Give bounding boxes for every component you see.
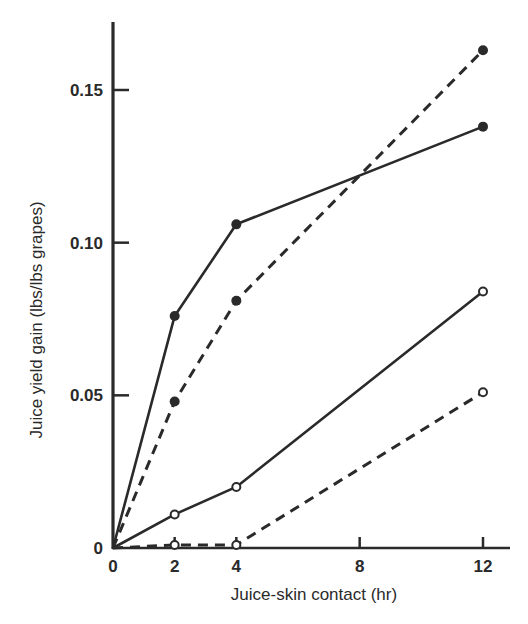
x-axis-label: Juice-skin contact (hr)	[231, 585, 397, 604]
data-point-filled	[170, 396, 180, 406]
y-axis-label: Juice yield gain (lbs/lbs grapes)	[27, 201, 46, 438]
y-tick-label: 0.05	[70, 386, 103, 405]
series-dashed-filled	[113, 45, 488, 548]
data-point-open	[479, 388, 487, 396]
x-tick-label: 2	[170, 557, 179, 576]
data-point-open	[232, 483, 240, 491]
data-point-filled	[231, 296, 241, 306]
data-point-filled	[170, 311, 180, 321]
y-tick-label: 0.15	[70, 81, 103, 100]
x-tick-label: 0	[108, 557, 117, 576]
y-tick-label: 0.10	[70, 234, 103, 253]
x-tick-label: 8	[355, 557, 364, 576]
series-dashed-open	[113, 388, 487, 549]
line-chart: 00.050.100.15024812 Juice-skin contact (…	[0, 0, 528, 624]
y-tick-label: 0	[94, 539, 103, 558]
data-point-filled	[478, 45, 488, 55]
data-point-filled	[478, 122, 488, 132]
x-tick-label: 4	[232, 557, 242, 576]
series-line	[113, 50, 483, 548]
series-group	[113, 45, 488, 549]
data-point-open	[479, 288, 487, 296]
x-tick-label: 12	[474, 557, 493, 576]
data-point-open	[171, 510, 179, 518]
series-solid-filled	[113, 122, 488, 548]
series-line	[113, 127, 483, 548]
data-point-open	[232, 541, 240, 549]
data-point-open	[171, 541, 179, 549]
data-point-filled	[231, 219, 241, 229]
